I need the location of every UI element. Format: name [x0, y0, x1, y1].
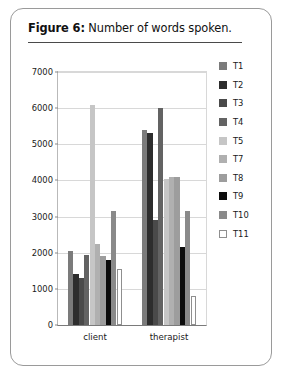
- legend-label: T4: [233, 117, 243, 127]
- legend-swatch-icon: [219, 192, 227, 200]
- legend-item-t7[interactable]: T7: [219, 150, 271, 169]
- bar: [158, 108, 163, 325]
- bar: [153, 220, 158, 325]
- legend-swatch-icon: [219, 155, 227, 163]
- legend-swatch-icon: [219, 118, 227, 126]
- legend-label: T5: [233, 136, 243, 146]
- x-axis-group-label: therapist: [150, 332, 189, 342]
- legend-item-t9[interactable]: T9: [219, 187, 271, 206]
- bar: [106, 260, 111, 325]
- y-axis-tick-label: 5000: [32, 139, 53, 149]
- legend-label: T7: [233, 154, 243, 164]
- legend-label: T2: [233, 80, 243, 90]
- bar: [100, 256, 105, 325]
- legend-swatch-icon: [219, 137, 227, 145]
- legend-label: T10: [233, 210, 249, 220]
- legend-swatch-icon: [219, 81, 227, 89]
- legend-label: T1: [233, 61, 243, 71]
- legend-swatch-icon: [219, 174, 227, 182]
- legend-item-t11[interactable]: T11: [219, 224, 271, 243]
- bar: [191, 296, 196, 325]
- legend-swatch-icon: [219, 62, 227, 70]
- legend-label: T11: [233, 229, 249, 239]
- bar: [84, 255, 89, 325]
- legend-item-t3[interactable]: T3: [219, 94, 271, 113]
- x-axis-group-label: client: [83, 332, 107, 342]
- bar: [117, 269, 122, 325]
- y-axis-tick-label: 3000: [32, 212, 53, 222]
- legend-label: T8: [233, 173, 243, 183]
- legend-item-t4[interactable]: T4: [219, 113, 271, 132]
- bar: [180, 247, 185, 325]
- y-axis-tick-label: 1000: [32, 284, 53, 294]
- bar: [174, 177, 179, 325]
- legend-swatch-icon: [219, 99, 227, 107]
- y-axis-tick-label: 6000: [32, 103, 53, 113]
- chart-legend: T1T2T3T4T5T7T8T9T10T11: [219, 57, 271, 243]
- caption-divider: [28, 42, 242, 43]
- bar: [142, 130, 147, 325]
- legend-swatch-icon: [219, 230, 227, 238]
- legend-label: T3: [233, 98, 243, 108]
- legend-item-t5[interactable]: T5: [219, 131, 271, 150]
- figure-number: Figure 6:: [28, 21, 85, 35]
- legend-item-t8[interactable]: T8: [219, 169, 271, 188]
- y-axis-tick-label: 4000: [32, 175, 53, 185]
- legend-item-t2[interactable]: T2: [219, 76, 271, 95]
- figure-caption-text: Number of words spoken.: [85, 21, 232, 35]
- bar: [164, 179, 169, 325]
- y-axis-tick-label: 2000: [32, 248, 53, 258]
- legend-item-t10[interactable]: T10: [219, 206, 271, 225]
- bars-layer: [58, 72, 206, 325]
- bar: [79, 278, 84, 325]
- legend-label: T9: [233, 191, 243, 201]
- plot-area: 01000200030004000500060007000 clientther…: [57, 71, 207, 326]
- legend-item-t1[interactable]: T1: [219, 57, 271, 76]
- bar: [90, 105, 95, 325]
- legend-swatch-icon: [219, 211, 227, 219]
- y-axis-tick-label: 7000: [32, 67, 53, 77]
- bar: [68, 251, 73, 325]
- figure-caption: Figure 6: Number of words spoken.: [28, 21, 258, 35]
- figure-card: Figure 6: Number of words spoken. 010002…: [10, 8, 272, 366]
- y-axis-tick-label: 0: [48, 320, 53, 330]
